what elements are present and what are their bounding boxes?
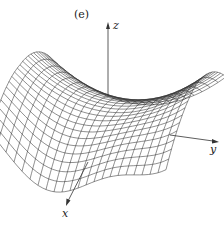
z-axis-label: z	[112, 19, 119, 32]
x-axis-label: x	[62, 207, 69, 220]
x-axis: x	[62, 162, 88, 220]
y-axis-label: y	[209, 143, 217, 156]
figure-caption: (e)	[74, 8, 89, 21]
surface-plot-figure: (e) z y x	[0, 0, 224, 226]
y-axis: y	[170, 135, 219, 156]
z-axis: z	[106, 19, 119, 96]
wireframe-surface	[0, 52, 224, 192]
z-axis-arrowhead-icon	[106, 22, 110, 29]
x-axis-arrowhead-icon	[66, 199, 71, 207]
